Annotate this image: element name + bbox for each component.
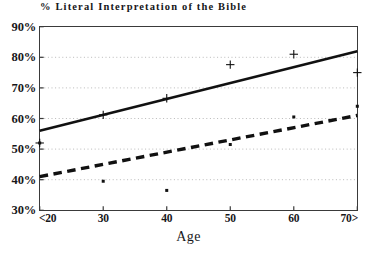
y-tick-marks <box>40 27 44 211</box>
x-tick-label: 30 <box>98 212 109 224</box>
chart-figure: % Literal Interpretation of the Bible 30… <box>0 0 377 259</box>
y-tick-label: 90% <box>0 19 36 34</box>
y-tick-label: 80% <box>0 50 36 65</box>
chart-canvas <box>0 0 377 259</box>
y-tick-label: 70% <box>0 80 36 95</box>
x-tick-marks <box>40 206 358 210</box>
y-tick-label: 60% <box>0 111 36 126</box>
series-group <box>40 51 358 176</box>
x-tick-label: 50 <box>225 212 236 224</box>
markers-group <box>36 50 362 192</box>
x-tick-label: 70> <box>341 212 358 224</box>
y-tick-label: 30% <box>0 203 36 218</box>
x-tick-label: 60 <box>288 212 299 224</box>
x-tick-label: 40 <box>161 212 172 224</box>
x-tick-label: <20 <box>39 212 56 224</box>
y-tick-label: 50% <box>0 142 36 157</box>
x-axis-label: Age <box>0 229 377 245</box>
y-tick-label: 40% <box>0 172 36 187</box>
